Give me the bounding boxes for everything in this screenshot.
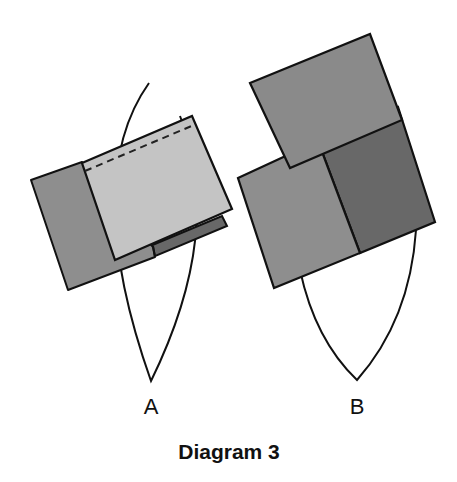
figure-a: A [31, 83, 232, 419]
figure-a-label: A [144, 394, 159, 419]
figure-b: B [238, 34, 435, 419]
diagram-title: Diagram 3 [178, 440, 280, 463]
figure-b-label: B [350, 394, 365, 419]
diagram-canvas: A B Diagram 3 [0, 0, 457, 482]
